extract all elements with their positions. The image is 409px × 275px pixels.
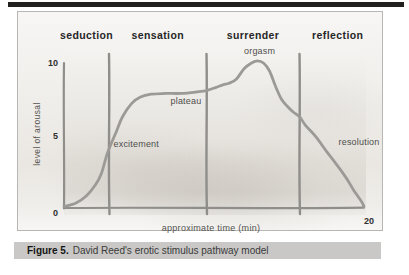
top-rule — [8, 2, 404, 7]
ytick-0: 0 — [53, 208, 58, 218]
scanned-figure-page: { "page": { "background": "#ffffff", "to… — [0, 0, 409, 275]
figure-panel: level of arousal approximate time (min) … — [17, 11, 383, 231]
xtick-20: 20 — [364, 216, 374, 226]
annotation-orgasm: orgasm — [244, 46, 275, 56]
arousal-curve-chart — [18, 12, 384, 232]
ytick-10: 10 — [48, 58, 58, 68]
phase-label-seduction: seduction — [60, 29, 113, 41]
annotation-excitement: excitement — [114, 139, 160, 149]
phase-label-surrender: surrender — [227, 29, 280, 41]
phase-divider-2 — [206, 54, 207, 214]
figure-caption: Figure 5. David Reed's erotic stimulus p… — [14, 242, 381, 259]
ytick-5: 5 — [53, 131, 58, 141]
phase-label-reflection: reflection — [312, 29, 363, 41]
y-axis-title: level of arousal — [32, 102, 42, 166]
x-axis-title: approximate time (min) — [162, 223, 261, 233]
phase-divider-3 — [299, 54, 300, 214]
annotation-resolution: resolution — [339, 137, 380, 147]
annotation-plateau: plateau — [171, 96, 202, 106]
figure-caption-text: David Reed's erotic stimulus pathway mod… — [73, 245, 269, 256]
phase-label-sensation: sensation — [131, 29, 184, 41]
phase-divider-1 — [109, 54, 110, 214]
figure-number: Figure 5. — [27, 245, 69, 256]
